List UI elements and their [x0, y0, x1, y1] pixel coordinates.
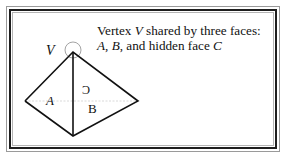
pyramid-diagram: V A B C	[0, 0, 288, 160]
vertex-label-v: V	[46, 43, 56, 58]
face-label-a: A	[45, 93, 54, 108]
outline-edge	[25, 52, 138, 136]
face-label-c-mirrored: C	[82, 83, 90, 97]
face-label-c: C	[82, 83, 90, 97]
visible-edges	[25, 52, 138, 136]
face-label-b: B	[88, 101, 97, 116]
